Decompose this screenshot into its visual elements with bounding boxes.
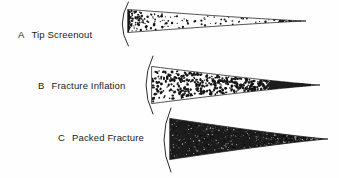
panel-b-graphic (146, 56, 320, 114)
panel-c-label: CPacked Fracture (58, 133, 144, 143)
panel-c-letter: C (58, 133, 65, 143)
panel-c-graphic (164, 108, 328, 172)
panel-c-label-text: Packed Fracture (72, 132, 144, 143)
panel-b-label-text: Fracture Inflation (52, 80, 126, 91)
panel-a-label: ATip Screenout (18, 30, 92, 40)
fracture-diagram-figure: ATip Screenout BFracture Inflation CPack… (0, 0, 339, 178)
panel-b-label: BFracture Inflation (38, 81, 125, 91)
panel-a-graphic (122, 2, 306, 46)
panel-a-letter: A (18, 30, 25, 40)
panel-a-label-text: Tip Screenout (32, 29, 93, 40)
panel-b-letter: B (38, 81, 45, 91)
